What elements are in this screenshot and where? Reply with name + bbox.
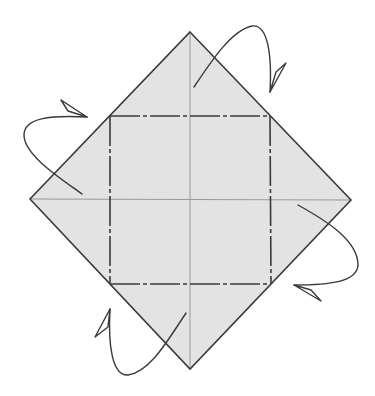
mountain-fold-right xyxy=(270,116,271,284)
origami-diagram xyxy=(0,0,375,396)
